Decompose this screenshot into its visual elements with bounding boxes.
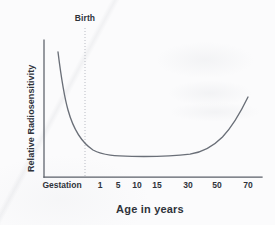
x-axis-title: Age in years (116, 203, 184, 215)
x-tick-label-15: 15 (152, 180, 161, 190)
x-tick-label-gestation: Gestation (42, 180, 81, 190)
radiosensitivity-curve (58, 52, 248, 156)
x-tick-label-5: 5 (116, 180, 121, 190)
x-tick-label-70: 70 (243, 180, 252, 190)
x-tick-label-30: 30 (183, 180, 192, 190)
x-tick-label-1: 1 (98, 180, 103, 190)
radiosensitivity-vs-age-chart: Birth Relative Radiosensitivity Age in y… (0, 0, 275, 225)
x-tick-label-10: 10 (132, 180, 141, 190)
plot-area (0, 0, 275, 225)
x-tick-label-50: 50 (212, 180, 221, 190)
y-axis-title: Relative Radiosensitivity (26, 65, 36, 172)
birth-annotation-label: Birth (75, 13, 95, 23)
